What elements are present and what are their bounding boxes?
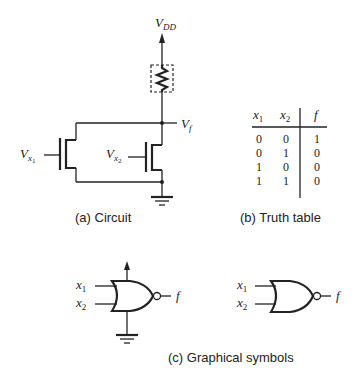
power-arrow-icon [124,261,130,270]
svg-text:1: 1 [256,160,262,174]
svg-text:f: f [176,288,182,303]
svg-text:1: 1 [283,174,289,188]
caption-circuit: (a) Circuit [75,210,132,225]
svg-text:0: 0 [314,174,320,188]
svg-text:f: f [336,288,342,303]
svg-text:0: 0 [256,146,262,160]
transistor-x2 [128,142,162,197]
svg-text:0: 0 [314,160,320,174]
nor-gate-icon [271,281,313,312]
svg-text:x1: x1 [75,277,86,294]
svg-text:0: 0 [256,132,262,146]
svg-text:x2: x2 [236,295,247,312]
nor-gate-figure: VDD Vf Vx1 Vx2 [0,0,362,379]
truth-table: x1 x2 f 0 0 1 0 1 0 1 0 0 1 1 0 (b) Trut… [240,107,327,225]
nor-gate-icon [112,281,153,311]
svg-text:x1: x1 [236,277,247,294]
symbol-plain: x1 x2 f [236,277,342,312]
header-f: f [314,107,320,122]
svg-text:1: 1 [256,174,262,188]
symbol-with-power: x1 x2 f [75,261,182,343]
resistor-icon [157,65,167,92]
vf-label: Vf [181,116,193,133]
transistor-x1 [44,138,76,182]
caption-symbols: (c) Graphical symbols [168,350,294,365]
ground-icon-symbol [116,335,138,343]
caption-truth-table: (b) Truth table [240,210,321,225]
header-x1: x1 [252,107,263,124]
svg-text:0: 0 [283,132,289,146]
circuit-diagram: VDD Vf Vx1 Vx2 [20,15,193,225]
svg-text:0: 0 [283,160,289,174]
svg-text:1: 1 [314,132,320,146]
ground-icon [151,197,173,205]
header-x2: x2 [279,107,290,124]
svg-text:x2: x2 [75,295,86,312]
vdd-label: VDD [155,15,176,32]
vdd-arrow-icon [159,33,165,43]
svg-text:1: 1 [283,146,289,160]
svg-text:0: 0 [314,146,320,160]
vx1-label: Vx1 [20,146,36,165]
vx2-label: Vx2 [106,146,122,165]
